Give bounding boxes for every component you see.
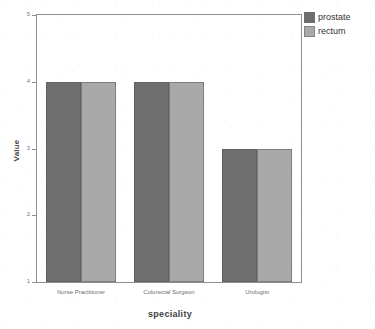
legend: prostaterectum — [304, 11, 374, 39]
y-axis-tick: 4 — [0, 82, 36, 83]
x-tick-label: Nurse Practitioner — [37, 288, 125, 297]
prostate-swatch-icon — [304, 12, 315, 23]
y-tick-label: 5 — [27, 10, 30, 19]
y-tick-label: 4 — [27, 77, 30, 86]
legend-item[interactable]: rectum — [304, 25, 374, 38]
bar-group — [46, 15, 116, 282]
y-tick-label: 3 — [27, 144, 30, 153]
bar-group — [134, 15, 204, 282]
y-axis-title-text: Value — [12, 125, 21, 177]
x-tick-label: Colorectal Surgeon — [125, 288, 213, 297]
bar-prostate-2[interactable] — [222, 149, 257, 283]
rectum-swatch-icon — [304, 26, 315, 37]
x-axis-tick-labels: Nurse PractitionerColorectal SurgeonUrol… — [37, 288, 301, 302]
y-tick-label: 2 — [27, 210, 30, 219]
legend-label: rectum — [318, 26, 346, 37]
bar-chart-figure: 54321 Value Nurse PractitionerColorectal… — [0, 0, 375, 329]
y-axis-tick: 1 — [0, 282, 36, 283]
bar-rectum-2[interactable] — [257, 149, 292, 283]
x-tick-label: Urologist — [213, 288, 301, 297]
y-axis-title: Value — [9, 124, 23, 176]
x-axis-title: speciality — [0, 309, 340, 319]
y-tick-label: 1 — [27, 277, 30, 286]
legend-item[interactable]: prostate — [304, 11, 374, 24]
bar-prostate-0[interactable] — [46, 82, 81, 282]
legend-label: prostate — [318, 12, 351, 23]
y-axis-tick: 5 — [0, 15, 36, 16]
bar-group — [222, 15, 292, 282]
bar-rectum-0[interactable] — [81, 82, 116, 282]
bars-layer — [37, 15, 301, 282]
y-axis-tick: 2 — [0, 215, 36, 216]
bar-rectum-1[interactable] — [169, 82, 204, 282]
bar-prostate-1[interactable] — [134, 82, 169, 282]
